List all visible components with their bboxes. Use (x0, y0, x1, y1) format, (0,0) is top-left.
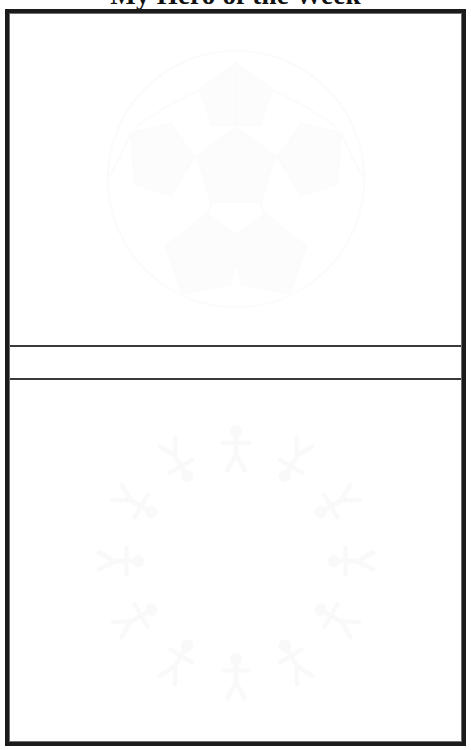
people-circle-watermark (90, 415, 382, 707)
bottom-writing-area[interactable] (9, 380, 462, 742)
soccer-ball-watermark (101, 44, 371, 314)
top-drawing-area[interactable] (9, 13, 462, 347)
caption-writing-band[interactable] (9, 347, 462, 380)
caption-line (9, 347, 462, 378)
worksheet-page: My Hero of the Week (0, 0, 471, 750)
worksheet-frame (5, 9, 466, 746)
